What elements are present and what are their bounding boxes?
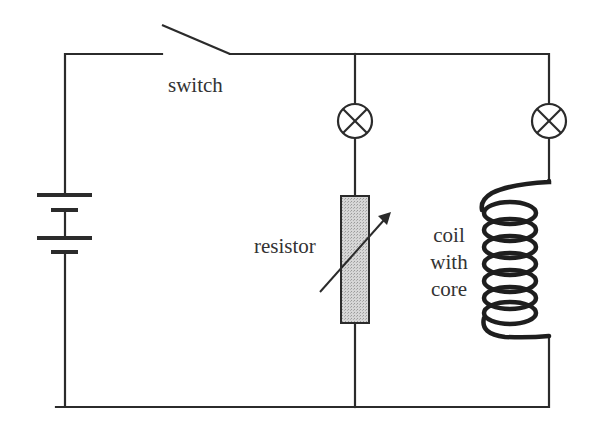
resistor-label: resistor [254, 236, 316, 257]
switch-blade [162, 25, 230, 54]
battery-icon [37, 195, 92, 252]
lamp-icon [532, 104, 566, 138]
coil-label-line-3: core [422, 276, 476, 303]
wire-left-top [65, 54, 162, 195]
coil-label-line-1: coil [422, 222, 476, 249]
wire-right-bottom [56, 336, 549, 407]
switch-label: switch [168, 75, 223, 96]
wire-left-bottom [65, 252, 355, 407]
coil-label-line-2: with [422, 249, 476, 276]
wire-top [230, 54, 549, 112]
circuit-diagram: switch resistor coil with core [0, 0, 593, 442]
circuit-drawing [0, 0, 593, 442]
variable-resistor-icon [320, 196, 391, 323]
coil-icon [482, 181, 549, 337]
lamp-icon [338, 104, 372, 138]
coil-label: coil with core [422, 222, 476, 303]
